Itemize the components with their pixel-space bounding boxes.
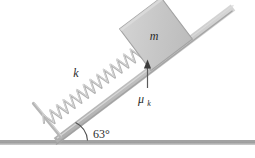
friction-coefficient-label: μ k xyxy=(137,92,151,108)
diagram-svg: k m μ k 63° xyxy=(0,0,255,158)
physics-diagram-canvas: k m μ k 63° xyxy=(0,0,255,158)
block-mass-label: m xyxy=(150,29,159,43)
ground-line xyxy=(0,141,255,146)
friction-coefficient-subscript: k xyxy=(147,99,151,108)
spring-constant-label: k xyxy=(73,66,79,80)
incline-angle-label: 63° xyxy=(93,127,110,141)
friction-coefficient-symbol: μ xyxy=(137,92,144,106)
